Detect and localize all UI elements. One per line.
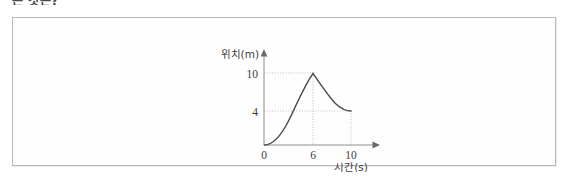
- position-time-chart: 10 4 0 6 10 위치(m) 시간(s): [203, 44, 393, 172]
- x-axis-arrow-icon: [373, 142, 381, 149]
- chart-svg: 10 4 0 6 10 위치(m) 시간(s): [203, 44, 393, 172]
- x-tick-label-0: 0: [261, 149, 267, 161]
- x-tick-label-10: 10: [345, 149, 357, 161]
- position-curve: [265, 73, 352, 145]
- clipped-heading-text: 은 것은?: [12, 0, 172, 5]
- y-tick-label-10: 10: [247, 68, 259, 80]
- figure-box: 10 4 0 6 10 위치(m) 시간(s): [12, 17, 556, 166]
- x-axis-title: 시간(s): [334, 161, 368, 172]
- y-axis-title: 위치(m): [221, 48, 259, 60]
- x-tick-label-6: 6: [310, 149, 316, 161]
- y-tick-label-4: 4: [252, 106, 258, 118]
- y-axis-arrow-icon: [261, 49, 268, 57]
